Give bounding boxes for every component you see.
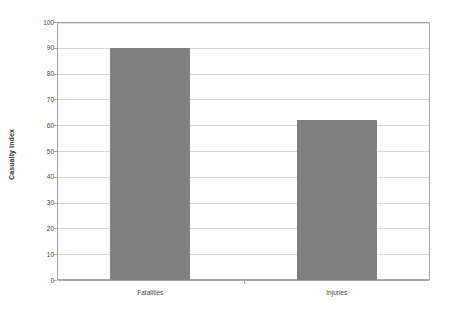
gridline-10 (58, 254, 429, 255)
gridline-60 (58, 125, 429, 126)
gridlines (58, 23, 429, 279)
gridline-100 (58, 23, 429, 24)
x-axis-label-fatalities: Fatalities (137, 288, 163, 297)
x-axis: FatalitiesInjuries (57, 280, 430, 309)
gridline-40 (58, 177, 429, 178)
bar-chart: Casualty Index 0102030405060708090100 Fa… (0, 0, 449, 309)
gridline-70 (58, 99, 429, 100)
gridline-50 (58, 151, 429, 152)
y-axis-ticks: 0102030405060708090100 (0, 22, 57, 280)
x-tick-mark (244, 280, 245, 284)
plot-area (57, 22, 430, 280)
gridline-90 (58, 48, 429, 49)
x-axis-label-injuries: Injuries (326, 288, 347, 297)
gridline-20 (58, 228, 429, 229)
gridline-80 (58, 74, 429, 75)
gridline-30 (58, 203, 429, 204)
